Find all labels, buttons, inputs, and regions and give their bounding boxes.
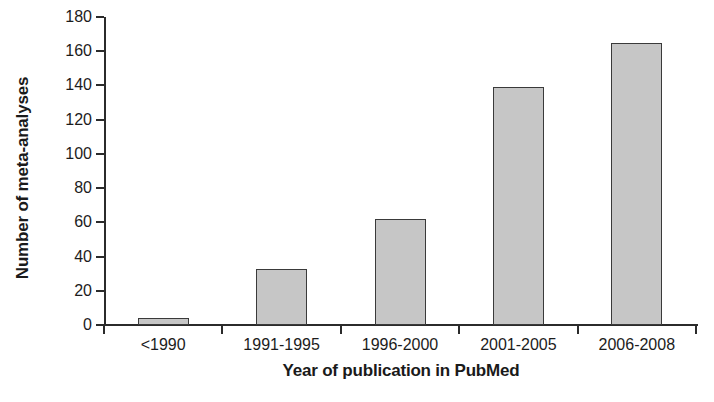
x-axis-tick-label: 2006-2008 [578,336,696,354]
x-axis-tick [458,326,460,334]
x-axis-tick [221,326,223,334]
y-axis-tick-label: 120 [0,112,92,128]
y-axis-tick [96,256,104,258]
bar [493,87,544,325]
y-axis-tick [96,221,104,223]
bar [256,269,307,325]
plot-area [104,17,696,325]
bar-chart: Number of meta-analyses 0204060801001201… [0,0,714,402]
bar [138,318,189,325]
y-axis-tick-label: 160 [0,43,92,59]
y-axis-tick-label: 80 [0,180,92,196]
x-axis-tick-label: 1991-1995 [222,336,340,354]
x-axis-tick [695,326,697,334]
y-axis-tick-label: 140 [0,77,92,93]
y-axis-tick-label: 0 [0,317,92,333]
y-axis-tick-labels: 020406080100120140160180 [0,0,92,402]
x-axis-tick [340,326,342,334]
bar [375,219,426,325]
y-axis-tick-label: 60 [0,214,92,230]
y-axis-tick-label: 40 [0,249,92,265]
x-axis-tick [103,326,105,334]
y-axis-tick [96,187,104,189]
x-axis-tick-label: 2001-2005 [459,336,577,354]
y-axis-tick-label: 180 [0,9,92,25]
x-axis-title: Year of publication in PubMed [104,361,698,381]
y-axis-tick-label: 100 [0,146,92,162]
x-axis-tick [577,326,579,334]
y-axis-tick [96,119,104,121]
x-axis-tick-label: <1990 [104,336,222,354]
y-axis-tick [96,290,104,292]
x-axis-tick-label: 1996-2000 [341,336,459,354]
y-axis-tick [96,16,104,18]
y-axis-tick [96,84,104,86]
bar [611,43,662,325]
y-axis-tick [96,50,104,52]
y-axis-tick-label: 20 [0,283,92,299]
y-axis-tick [96,153,104,155]
